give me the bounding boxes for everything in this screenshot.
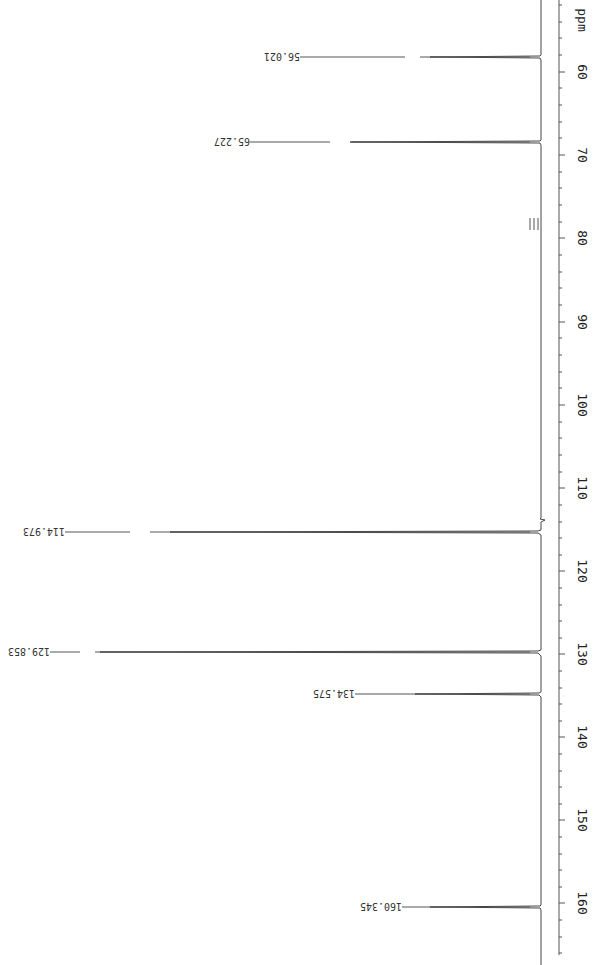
spectrum-trace [100, 0, 545, 965]
peak-label-130: 129.853 [8, 646, 50, 657]
tick-label-130: 130 [575, 642, 590, 665]
peak-label-115: 114.973 [23, 526, 65, 537]
tick-label-120: 120 [575, 559, 590, 582]
tick-label-80: 80 [575, 230, 590, 246]
tick-label-70: 70 [575, 147, 590, 163]
peak-label-134: 134.575 [313, 688, 355, 699]
tick-label-100: 100 [575, 393, 590, 416]
ppm-axis-labels: ppm 60 70 80 90 100 110 120 130 140 150 … [575, 8, 590, 914]
tick-label-150: 150 [575, 808, 590, 831]
solvent-triplet-marks [530, 218, 538, 230]
ppm-axis [559, 0, 565, 955]
axis-unit-label: ppm [575, 8, 590, 32]
tick-label-90: 90 [575, 314, 590, 330]
tick-label-160: 160 [575, 891, 590, 914]
tick-label-140: 140 [575, 725, 590, 748]
tick-label-110: 110 [575, 476, 590, 499]
nmr-spectrum-chart: 56.021 65.227 114.973 129.853 134.575 16… [0, 0, 599, 965]
tick-label-60: 60 [575, 64, 590, 80]
peak-label-65: 65.227 [214, 136, 250, 147]
peak-annotations [50, 57, 530, 907]
peak-label-56: 56.021 [264, 51, 300, 62]
peak-label-160: 160.345 [360, 901, 402, 912]
peak-labels: 56.021 65.227 114.973 129.853 134.575 16… [8, 51, 402, 912]
